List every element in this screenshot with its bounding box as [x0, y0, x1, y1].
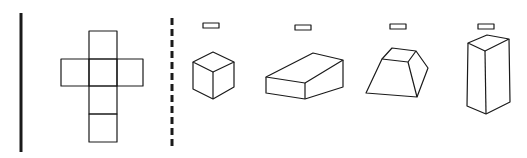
option-cube — [193, 52, 234, 99]
answer-box-1[interactable] — [203, 23, 219, 28]
answer-box-2[interactable] — [295, 25, 311, 30]
diagram-canvas — [0, 0, 527, 158]
answer-box-4[interactable] — [478, 24, 494, 29]
answer-box-3[interactable] — [390, 24, 406, 29]
option-rectangular-box — [266, 53, 343, 99]
cube-net — [61, 31, 143, 142]
option-rectangular-prism-tall — [467, 35, 510, 114]
option-frustum — [366, 48, 428, 97]
